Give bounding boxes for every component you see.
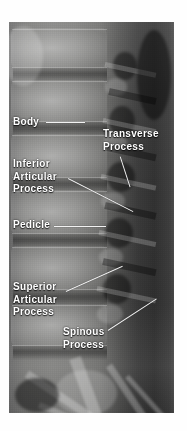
xray-figure: Body Transverse Process Inferior Articul…: [0, 0, 187, 431]
soft-tissue-shadow: [137, 30, 171, 120]
vertebral-endplate: [12, 289, 107, 290]
intervertebral-disc-space: [13, 232, 107, 248]
bowel-gas-shadow: [15, 378, 59, 412]
lumbar-spine-radiograph: [9, 22, 174, 413]
facet-joint: [97, 304, 123, 324]
vertebral-endplate: [12, 345, 107, 346]
vertebral-endplate: [12, 177, 107, 178]
vertebral-endplate: [12, 121, 107, 122]
vertebral-body: [11, 134, 107, 178]
vertebral-body: [11, 304, 107, 346]
intervertebral-disc-space: [13, 288, 107, 306]
vertebral-body: [11, 246, 107, 290]
vertebral-endplate: [12, 135, 107, 136]
vertebral-endplate: [12, 305, 107, 306]
vertebral-body: [11, 190, 107, 234]
intervertebral-disc-space: [13, 344, 107, 360]
vertebral-endplate: [12, 233, 107, 234]
vertebral-body: [11, 80, 107, 122]
vertebral-endplate: [12, 247, 107, 248]
vertebral-endplate: [12, 191, 107, 192]
sacral-mass: [55, 370, 117, 413]
intervertebral-disc-space: [13, 120, 107, 136]
intervertebral-disc-space: [13, 176, 107, 192]
